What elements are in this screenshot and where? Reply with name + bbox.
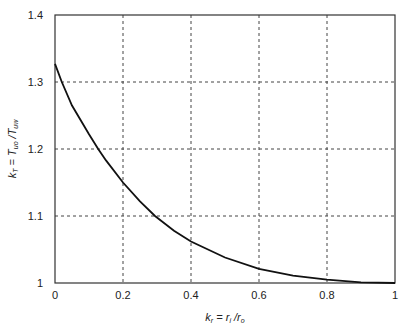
x-tick-label: 0.4 xyxy=(183,289,198,301)
y-tick-label: 1.3 xyxy=(28,76,43,88)
y-axis-ticks: 11.11.21.31.4 xyxy=(28,9,43,289)
x-tick-label: 0.8 xyxy=(319,289,334,301)
x-tick-label: 1 xyxy=(392,289,398,301)
x-tick-label: 0.6 xyxy=(251,289,266,301)
y-tick-label: 1.2 xyxy=(28,143,43,155)
y-axis-label: kT = Tuo /Tuw xyxy=(6,119,19,179)
x-tick-label: 0 xyxy=(52,289,58,301)
chart: 00.20.40.60.81 11.11.21.31.4 kr = ri /ro… xyxy=(0,0,405,327)
series-line-kT xyxy=(55,64,395,283)
x-axis-ticks: 00.20.40.60.81 xyxy=(52,289,398,301)
y-tick-label: 1 xyxy=(37,277,43,289)
y-tick-label: 1.4 xyxy=(28,9,43,21)
x-axis-label: kr = ri /ro xyxy=(205,311,244,324)
y-tick-label: 1.1 xyxy=(28,210,43,222)
x-tick-label: 0.2 xyxy=(115,289,130,301)
grid-lines xyxy=(55,15,395,283)
